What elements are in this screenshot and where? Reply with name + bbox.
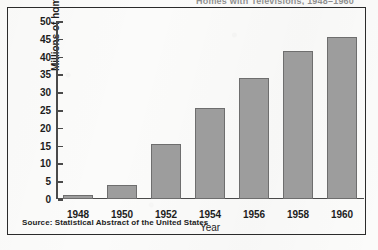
y-axis-tick-mark	[58, 39, 63, 41]
y-axis-tick-label: 10	[40, 158, 51, 169]
x-axis-tick-label: 1958	[275, 209, 321, 220]
source-note: Source: Statistical Abstract of the Unit…	[22, 218, 208, 227]
y-axis-tick-label: 35	[40, 69, 51, 80]
y-axis-tick-label: 25	[40, 105, 51, 116]
bar	[327, 37, 357, 199]
y-axis-tick-mark	[58, 110, 63, 112]
bar	[239, 78, 269, 199]
y-axis-tick-label: 30	[40, 87, 51, 98]
bar-chart-plot-area: Millions of homes 05101520253035404550 1…	[56, 21, 366, 206]
x-axis-tick-label: 1960	[319, 209, 365, 220]
y-axis-tick-mark	[58, 74, 63, 76]
bar	[283, 51, 313, 199]
y-axis-tick-label: 40	[40, 51, 51, 62]
y-axis-tick-label: 45	[40, 33, 51, 44]
y-axis-tick-mark	[58, 57, 63, 59]
y-axis-tick-label: 0	[45, 194, 51, 205]
x-axis-tick-label: 1956	[231, 209, 277, 220]
y-axis-tick-label: 5	[45, 176, 51, 187]
y-axis-tick-mark	[58, 21, 63, 23]
y-axis-tick-label: 20	[40, 122, 51, 133]
clipped-figure-title: Homes with Televisions, 1948–1960	[196, 0, 374, 5]
y-axis-tick-mark	[58, 128, 63, 130]
y-axis-tick-mark	[58, 181, 63, 183]
y-axis-tick-mark	[58, 92, 63, 94]
y-axis-tick-mark	[58, 146, 63, 148]
bar	[195, 108, 225, 199]
bar	[63, 195, 93, 199]
y-axis-tick-label: 50	[40, 16, 51, 27]
bar	[107, 185, 137, 199]
figure-frame: Millions of homes 05101520253035404550 1…	[7, 7, 366, 235]
y-axis-tick-label: 15	[40, 140, 51, 151]
y-axis-tick-mark	[58, 199, 63, 201]
bar	[151, 144, 181, 199]
y-axis-tick-mark	[58, 163, 63, 165]
